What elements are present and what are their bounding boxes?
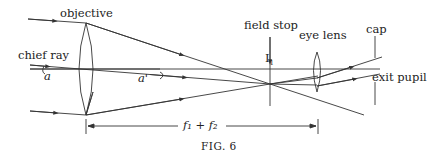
image-point-subscript: 1 — [270, 59, 274, 67]
angle-a-label: a — [44, 71, 51, 83]
objective-label: objective — [60, 8, 113, 20]
eye-lens-label: eye lens — [299, 30, 347, 42]
telescope-diagram: objective chief ray a a' field stop I1 e… — [0, 0, 438, 157]
figure-caption: FIG. 6 — [201, 141, 237, 152]
field-stop-label: field stop — [244, 20, 298, 32]
cap-label: cap — [366, 24, 387, 36]
image-point-label: I1 — [265, 53, 274, 67]
exit-pupil-label: exit pupil — [372, 72, 427, 84]
distance-label: f₁ + f₂ — [183, 120, 218, 132]
chief-ray-label: chief ray — [18, 50, 69, 62]
angle-a-prime-label: a' — [138, 73, 148, 85]
